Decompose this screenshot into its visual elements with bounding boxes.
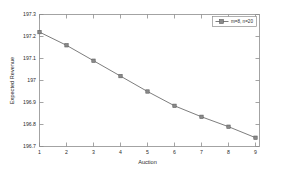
x-axis-title: Auction (138, 159, 157, 165)
data-point-marker (38, 30, 41, 33)
x-tick-label: 3 (92, 149, 95, 155)
x-tick-label: 5 (146, 149, 149, 155)
data-series-markers (38, 30, 257, 139)
chart-canvas: 196.7 196.8 196.9 197 197.1 197.2 197.3 (0, 0, 282, 173)
x-tick-label: 8 (227, 149, 230, 155)
x-tick-label: 4 (119, 149, 122, 155)
legend-marker-sample (220, 20, 224, 24)
data-point-marker (254, 136, 257, 139)
legend[interactable]: m=8, n=20 (213, 17, 257, 27)
data-point-marker (173, 104, 176, 107)
legend-entry-label: m=8, n=20 (231, 19, 253, 24)
y-tick-label: 197.2 (23, 33, 36, 39)
y-tick-label: 197.3 (23, 11, 36, 17)
y-tick-label: 196.8 (23, 121, 36, 127)
data-point-marker (119, 74, 122, 77)
y-axis-title: Expected Revenue (9, 57, 15, 104)
data-point-marker (146, 90, 149, 93)
x-axis-ticks (40, 15, 256, 147)
x-tick-label: 1 (38, 149, 41, 155)
data-point-marker (92, 59, 95, 62)
chart-figure: 196.7 196.8 196.9 197 197.1 197.2 197.3 (0, 0, 282, 173)
x-tick-label: 2 (65, 149, 68, 155)
y-axis-tick-labels: 196.7 196.8 196.9 197 197.1 197.2 197.3 (23, 11, 36, 149)
y-tick-label: 196.7 (23, 143, 36, 149)
data-point-marker (200, 115, 203, 118)
data-point-marker (65, 44, 68, 47)
data-series-line (40, 32, 256, 138)
x-tick-label: 9 (254, 149, 257, 155)
y-tick-label: 197.1 (23, 55, 36, 61)
data-point-marker (227, 125, 230, 128)
y-tick-label: 196.9 (23, 99, 36, 105)
x-tick-label: 6 (173, 149, 176, 155)
x-tick-label: 7 (200, 149, 203, 155)
y-tick-label: 197 (27, 77, 36, 83)
x-axis-tick-labels: 1 2 3 4 5 6 7 8 9 (38, 149, 257, 155)
